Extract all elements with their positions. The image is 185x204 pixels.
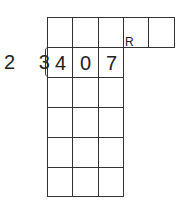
work-box[interactable] [98,107,124,138]
dividend-digit: 7 [99,48,124,78]
answer-box-1[interactable] [47,17,73,48]
work-box[interactable] [72,137,99,168]
remainder-label: R [125,35,134,49]
work-box[interactable] [47,107,73,138]
work-box[interactable] [98,167,124,197]
answer-box-3[interactable] [98,17,124,48]
work-box[interactable] [98,77,124,108]
dividend-digit: 0 [73,48,98,78]
work-box[interactable] [72,107,99,138]
work-box[interactable] [72,167,99,197]
work-box[interactable] [47,77,73,108]
work-box[interactable] [98,137,124,168]
work-box[interactable] [47,167,73,197]
dividend-digit: 4 [48,48,73,78]
work-box[interactable] [72,77,99,108]
answer-box-2[interactable] [72,17,99,48]
remainder-box-2[interactable] [148,17,175,48]
work-box[interactable] [47,137,73,168]
